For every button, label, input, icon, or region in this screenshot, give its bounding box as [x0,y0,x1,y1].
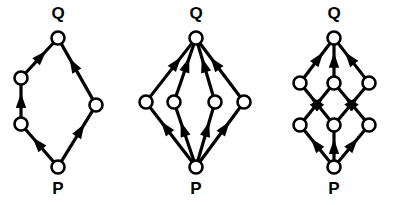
chain-pair-diamond-nodes [15,32,103,174]
node-lower-left[interactable] [294,119,307,132]
node-q[interactable] [190,32,203,45]
node-upper-right[interactable] [363,77,376,90]
edge-mid-3-to-q-arrowhead [201,58,211,74]
four-parallel-antichain-bottom-label: P [190,179,201,198]
four-parallel-antichain-nodes [140,32,251,174]
node-lower-center[interactable] [328,119,341,132]
edge-mid-2-to-q-arrowhead [179,58,189,74]
four-parallel-antichain-top-label: Q [189,4,202,23]
edge-right-mid-to-q-arrowhead [69,58,81,74]
chain-pair-diamond-edges [16,43,93,162]
node-mid-4[interactable] [238,96,251,109]
node-left-upper[interactable] [15,72,28,85]
hasse-diagram-figure: QPQPQP [0,0,397,205]
node-p[interactable] [190,161,203,174]
chain-pair-diamond: QP [15,4,103,198]
node-upper-left[interactable] [294,77,307,90]
four-parallel-antichain-edges [150,43,240,162]
diagram-canvas: QPQPQP [0,0,397,205]
edge-p-to-mid-2-arrowhead [181,122,191,138]
node-mid-1[interactable] [140,96,153,109]
node-right-mid[interactable] [90,99,103,112]
node-p[interactable] [328,161,341,174]
two-layer-lattice-bottom-label: P [328,179,339,198]
node-left-lower[interactable] [15,118,28,131]
edge-left-lower-to-left-upper-arrowhead [16,93,26,108]
node-q[interactable] [52,32,65,45]
chain-pair-diamond-bottom-label: P [52,179,63,198]
node-mid-2[interactable] [168,96,181,109]
node-lower-right[interactable] [363,119,376,132]
edge-right-mid-to-q [61,44,93,100]
node-q[interactable] [328,32,341,45]
edge-p-to-lower-center-arrowhead [329,139,339,154]
diagram-group: QPQPQP [15,4,376,198]
node-p[interactable] [52,161,65,174]
two-layer-lattice: QP [294,4,376,198]
edge-p-to-mid-3-arrowhead [200,122,210,138]
edge-upper-center-to-q-arrowhead [329,53,339,68]
two-layer-lattice-edges [304,43,365,162]
chain-pair-diamond-top-label: Q [51,4,64,23]
four-parallel-antichain: QP [140,4,251,198]
node-mid-3[interactable] [209,96,222,109]
two-layer-lattice-top-label: Q [327,4,340,23]
edge-p-to-right-mid-arrowhead [72,124,84,140]
node-upper-center[interactable] [328,77,341,90]
